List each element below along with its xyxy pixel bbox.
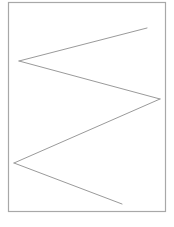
diagram-canvas [0,0,174,227]
